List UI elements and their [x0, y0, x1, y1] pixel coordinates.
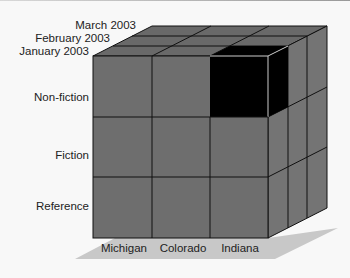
depth-label-february: February 2003: [35, 32, 110, 45]
row-label-non-fiction: Non-fiction: [34, 91, 89, 104]
column-label-indiana: Indiana: [205, 242, 275, 255]
depth-label-march: March 2003: [75, 19, 136, 32]
highlighted-cell[interactable]: [210, 46, 288, 117]
row-label-fiction: Fiction: [55, 149, 89, 162]
depth-label-january: January 2003: [19, 45, 89, 58]
row-label-reference: Reference: [36, 200, 89, 213]
